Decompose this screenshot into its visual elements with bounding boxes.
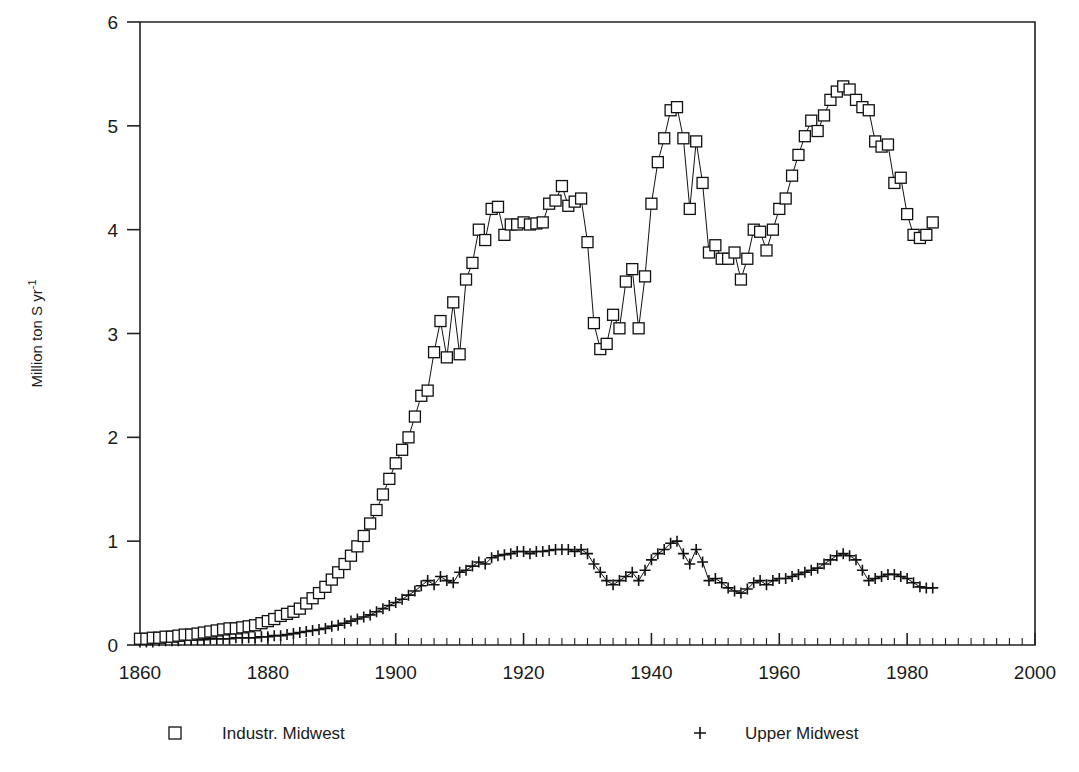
data-point-square [697, 177, 708, 188]
data-point-square [556, 181, 567, 192]
data-point-square [812, 126, 823, 137]
data-point-square [377, 489, 388, 500]
data-point-square [371, 505, 382, 516]
data-point-square [672, 102, 683, 113]
data-point-square [422, 385, 433, 396]
legend-marker-square [169, 727, 181, 739]
data-point-square [684, 203, 695, 214]
data-point-square [365, 518, 376, 529]
x-tick-label: 1920 [502, 662, 544, 683]
data-point-square [895, 172, 906, 183]
data-point-square [761, 245, 772, 256]
data-point-square [358, 530, 369, 541]
data-point-square [627, 264, 638, 275]
data-point-square [384, 473, 395, 484]
data-point-square [863, 105, 874, 116]
data-point-square [799, 131, 810, 142]
data-point-square [767, 224, 778, 235]
data-point-square [448, 297, 459, 308]
data-point-square [454, 349, 465, 360]
legend-label: Upper Midwest [745, 724, 859, 743]
data-point-square [461, 274, 472, 285]
data-point-square [608, 309, 619, 320]
x-tick-label: 1880 [247, 662, 289, 683]
data-point-square [576, 193, 587, 204]
data-point-square [620, 276, 631, 287]
data-point-square [780, 193, 791, 204]
data-point-square [927, 217, 938, 228]
data-point-square [787, 170, 798, 181]
y-tick-label: 1 [107, 531, 118, 552]
y-tick-label: 2 [107, 427, 118, 448]
y-tick-label: 3 [107, 324, 118, 345]
line-chart-canvas: 18601880190019201940196019802000 0123456… [0, 0, 1079, 772]
data-point-square [480, 235, 491, 246]
legend-label: Industr. Midwest [222, 724, 345, 743]
y-tick-label: 0 [107, 635, 118, 656]
x-tick-label: 1980 [886, 662, 928, 683]
y-axis-title-main: Million ton S yr [28, 289, 45, 387]
data-point-square [499, 229, 510, 240]
data-point-square [806, 115, 817, 126]
data-point-square [537, 217, 548, 228]
chart-background [0, 0, 1079, 772]
data-point-square [403, 432, 414, 443]
data-point-square [390, 458, 401, 469]
data-point-square [652, 157, 663, 168]
data-point-square [429, 347, 440, 358]
data-point-square [902, 209, 913, 220]
data-point-square [397, 444, 408, 455]
x-tick-label: 1940 [630, 662, 672, 683]
data-point-square [729, 247, 740, 258]
x-tick-label: 1960 [758, 662, 800, 683]
data-point-square [819, 110, 830, 121]
data-point-square [921, 229, 932, 240]
x-tick-label: 1860 [119, 662, 161, 683]
data-point-square [467, 257, 478, 268]
data-point-square [774, 203, 785, 214]
y-axis-title-group: Million ton S yr-1 [26, 279, 45, 387]
data-point-square [710, 240, 721, 251]
data-point-square [493, 201, 504, 212]
data-point-square [352, 541, 363, 552]
data-point-square [742, 253, 753, 264]
data-point-square [678, 133, 689, 144]
x-tick-label: 1900 [375, 662, 417, 683]
y-tick-label: 4 [107, 220, 118, 241]
data-point-square [793, 149, 804, 160]
data-point-square [633, 323, 644, 334]
data-point-square [441, 352, 452, 363]
y-tick-label: 6 [107, 12, 118, 33]
data-point-square [550, 195, 561, 206]
data-point-square [588, 318, 599, 329]
data-point-square [582, 237, 593, 248]
data-point-square [601, 338, 612, 349]
x-tick-label: 2000 [1014, 662, 1056, 683]
data-point-square [640, 271, 651, 282]
data-point-square [691, 136, 702, 147]
data-point-square [409, 411, 420, 422]
data-point-square [735, 274, 746, 285]
y-axis-title-exponent: -1 [26, 279, 38, 289]
data-point-square [844, 84, 855, 95]
y-axis-title-text: Million ton S yr-1 [26, 279, 45, 387]
data-point-square [755, 226, 766, 237]
data-point-square [882, 139, 893, 150]
y-tick-label: 5 [107, 116, 118, 137]
data-point-square [614, 323, 625, 334]
data-point-square [435, 316, 446, 327]
chart-figure: 18601880190019201940196019802000 0123456… [0, 0, 1079, 772]
data-point-square [473, 224, 484, 235]
data-point-square [659, 133, 670, 144]
data-point-square [646, 198, 657, 209]
y-axis-title: Million ton S yr-1 [26, 279, 45, 387]
